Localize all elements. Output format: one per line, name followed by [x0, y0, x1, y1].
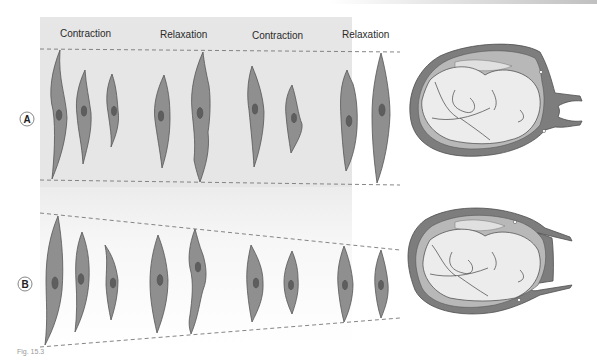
wall-marker — [513, 220, 516, 223]
nucleus — [252, 104, 257, 114]
nucleus — [78, 274, 84, 284]
nucleus — [289, 280, 294, 289]
column-label-relaxation-2: Relaxation — [342, 29, 389, 40]
nucleus — [343, 280, 348, 289]
nucleus — [110, 278, 115, 288]
fetus — [422, 67, 540, 144]
nucleus — [112, 106, 117, 115]
wall-marker — [542, 129, 545, 132]
row-label-a: A — [20, 112, 34, 126]
top-band — [0, 0, 597, 4]
svg-text:A: A — [24, 114, 31, 125]
column-label-relaxation-1: Relaxation — [160, 29, 207, 40]
nucleus — [157, 275, 163, 286]
nucleus — [56, 110, 62, 120]
uterus-illustration-b — [408, 208, 572, 314]
nucleus — [253, 278, 258, 288]
muscle-cell — [372, 53, 390, 183]
nucleus — [52, 277, 58, 289]
wall-marker — [517, 298, 520, 301]
nucleus — [292, 113, 297, 122]
uterus-illustration-a — [410, 44, 582, 156]
nucleus — [195, 262, 200, 272]
myometrium-diagram: Contraction Relaxation Contraction Relax… — [0, 0, 597, 360]
nucleus — [197, 108, 203, 119]
wall-marker — [539, 70, 542, 73]
nucleus — [158, 111, 163, 121]
nucleus — [81, 106, 86, 116]
row-label-b: B — [18, 277, 32, 291]
nucleus — [379, 280, 384, 289]
nucleus — [346, 116, 352, 127]
fetus — [423, 229, 540, 301]
svg-text:B: B — [22, 279, 29, 290]
figure-caption: Fig. 15.3 — [17, 348, 44, 355]
column-label-contraction-2: Contraction — [252, 30, 303, 41]
nucleus — [379, 104, 385, 116]
column-label-contraction-1: Contraction — [60, 28, 111, 39]
